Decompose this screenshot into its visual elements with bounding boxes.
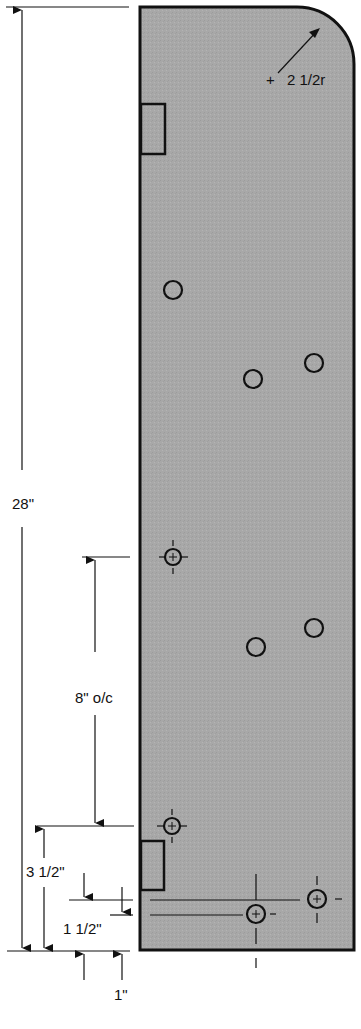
svg-text:+: +: [266, 71, 275, 88]
extension-lines: [6, 7, 134, 951]
panel-outline: [140, 7, 354, 950]
dimension-lower-line-offset: [84, 873, 122, 912]
lower-line-offset-label: 1 1/2": [63, 920, 102, 937]
radius-label: 2 1/2r: [287, 71, 325, 88]
hole-spacing-label: 8" o/c: [75, 689, 113, 706]
overall-height-label: 28": [12, 495, 34, 512]
panel-drawing: + 2 1/2r: [0, 0, 361, 1029]
bottom-gap-label: 1": [114, 986, 128, 1003]
dimension-bottom-gap: [84, 954, 122, 980]
bottom-hole-offset-label: 3 1/2": [26, 863, 65, 880]
